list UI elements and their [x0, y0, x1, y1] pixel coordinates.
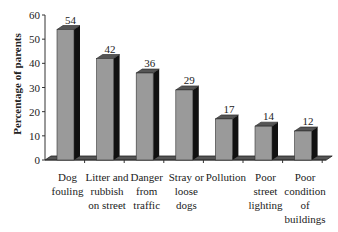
bar [295, 131, 312, 160]
data-label: 29 [184, 74, 196, 86]
bar-side [74, 26, 80, 161]
bar-side [272, 122, 278, 160]
bar [97, 59, 114, 161]
data-label: 14 [263, 110, 275, 122]
data-label: 54 [65, 14, 77, 26]
data-label: 36 [144, 57, 156, 69]
data-label: 17 [223, 103, 235, 115]
y-tick-label: 0 [35, 154, 41, 166]
bar [215, 119, 232, 160]
bar-side [232, 115, 238, 160]
bar [176, 90, 193, 160]
data-label: 42 [105, 43, 116, 55]
bar-side [114, 55, 120, 161]
y-tick-label: 40 [29, 57, 41, 69]
bar-side [153, 69, 159, 160]
bar-side [193, 86, 199, 160]
bar-side [312, 127, 318, 160]
data-label: 12 [303, 115, 314, 127]
y-tick-label: 10 [29, 130, 41, 142]
bar [57, 30, 74, 161]
y-tick-label: 20 [29, 106, 41, 118]
y-tick-label: 60 [29, 9, 41, 21]
bar [255, 126, 272, 160]
y-tick-label: 50 [29, 33, 41, 45]
y-tick-label: 30 [29, 82, 41, 94]
category-label: Poorconditionofbuildings [281, 170, 329, 226]
bar [136, 73, 153, 160]
